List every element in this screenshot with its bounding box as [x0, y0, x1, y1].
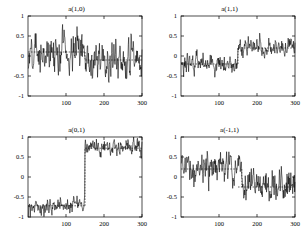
data-series-line	[181, 151, 295, 201]
y-tick-label: -1	[19, 92, 24, 99]
x-tick-label: 300	[137, 220, 147, 227]
x-tick-label: 100	[214, 99, 224, 106]
subplot-top-left: a(1,0) -1-0.500.51100200300	[0, 0, 153, 121]
figure-canvas: a(1,0) -1-0.500.51100200300 a(1,1) -1-0.…	[0, 0, 306, 242]
y-tick-label: 1	[174, 12, 177, 19]
plot-axes: -1-0.500.51100200300	[153, 0, 306, 121]
x-tick-label: 200	[252, 99, 262, 106]
plot-axes: -1-0.500.51100200300	[153, 121, 306, 242]
y-tick-label: -0.5	[14, 193, 24, 200]
x-tick-label: 300	[137, 99, 147, 106]
x-tick-label: 300	[290, 99, 300, 106]
x-tick-label: 100	[214, 220, 224, 227]
subplot-title: a(1,0)	[0, 5, 153, 13]
y-tick-label: -0.5	[167, 72, 177, 79]
x-tick-label: 200	[99, 99, 109, 106]
x-tick-label: 100	[61, 220, 71, 227]
x-tick-label: 300	[290, 220, 300, 227]
y-tick-label: -1	[172, 213, 177, 220]
y-tick-label: -0.5	[14, 72, 24, 79]
y-tick-label: 0.5	[16, 32, 24, 39]
y-tick-label: -1	[19, 213, 24, 220]
subplot-title: a(0,1)	[0, 126, 153, 134]
subplot-title: a(-1,1)	[153, 126, 306, 134]
subplot-title: a(1,1)	[153, 5, 306, 13]
y-tick-label: -0.5	[167, 193, 177, 200]
y-tick-label: 0.5	[16, 153, 24, 160]
y-tick-label: 0.5	[169, 153, 177, 160]
x-tick-label: 200	[252, 220, 262, 227]
y-tick-label: 1	[21, 12, 24, 19]
y-tick-label: -1	[172, 92, 177, 99]
y-tick-label: 1	[174, 133, 177, 140]
x-tick-label: 100	[61, 99, 71, 106]
plot-axes: -1-0.500.51100200300	[0, 0, 153, 121]
subplot-bottom-right: a(-1,1) -1-0.500.51100200300	[153, 121, 306, 242]
y-tick-label: 0	[174, 52, 177, 59]
subplot-top-right: a(1,1) -1-0.500.51100200300	[153, 0, 306, 121]
y-tick-label: 1	[21, 133, 24, 140]
subplot-bottom-left: a(0,1) -1-0.500.51100200300	[0, 121, 153, 242]
plot-axes: -1-0.500.51100200300	[0, 121, 153, 242]
x-tick-label: 200	[99, 220, 109, 227]
y-tick-label: 0	[21, 52, 24, 59]
y-tick-label: 0.5	[169, 32, 177, 39]
y-tick-label: 0	[174, 173, 177, 180]
y-tick-label: 0	[21, 173, 24, 180]
